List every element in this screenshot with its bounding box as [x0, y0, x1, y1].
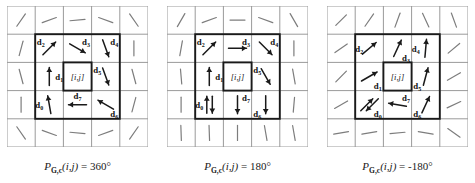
caption-value: 360° [90, 160, 111, 172]
outer-segment [362, 132, 377, 135]
panel-panel-180: [i,j]d0d1d2d3d4d5d6d7PG,c(i,j) = 180° [160, 0, 315, 183]
panel-panel-360: [i,j]d0d1d2d3d4d5d6d7PG,c(i,j) = 360° [0, 0, 155, 183]
neighbor-index-d2: 2 [202, 42, 205, 48]
outer-segment [395, 13, 400, 27]
neighbor-label-d5: d5 [93, 65, 101, 76]
neighbor-label-d4: d4 [412, 44, 420, 55]
grid-svg: [i,j]d0d1d2d3d4d5d6d7 [327, 6, 468, 147]
caption-subscript: G,c [369, 166, 380, 175]
grid-svg: [i,j]d0d1d2d3d4d5d6d7 [167, 6, 308, 147]
outer-segment [70, 19, 85, 20]
outer-segment [334, 132, 349, 135]
outer-segment [19, 41, 23, 55]
neighbor-index-d2: 2 [42, 42, 45, 48]
neighbor-label-d3: d3 [402, 53, 410, 64]
neighbor-label-d6: d6 [253, 109, 261, 120]
arrow-d6-head [263, 109, 269, 114]
neighbor-d2: d2 [37, 37, 56, 55]
outer-segment [42, 18, 56, 23]
caption-args: (i,j) [62, 160, 78, 172]
neighbor-index-d6: 6 [115, 114, 118, 120]
neighbor-d2: d2 [355, 43, 376, 55]
outer-segment [19, 69, 23, 83]
neighbor-index-d5: 5 [258, 70, 261, 76]
neighbor-d5: d5 [253, 65, 270, 84]
outer-segment [177, 14, 185, 27]
outer-segment [99, 130, 113, 135]
neighbor-label-d2: d2 [37, 37, 45, 48]
outer-segment [423, 13, 429, 27]
caption-symbol: P [204, 160, 211, 172]
arrow-d1-head [46, 68, 52, 73]
figure-root: [i,j]d0d1d2d3d4d5d6d7PG,c(i,j) = 360°[i,… [0, 0, 475, 183]
neighbor-d0: d0 [195, 96, 215, 113]
neighbor-index-d5: 5 [98, 70, 101, 76]
outer-segment [447, 102, 461, 108]
neighbor-d6: d6 [413, 97, 430, 121]
outer-segment [447, 73, 460, 81]
neighbor-label-d6: d6 [110, 109, 118, 120]
neighbor-label-d0: d0 [195, 100, 203, 111]
outer-segment [130, 14, 139, 26]
neighbor-d0: d0 [35, 96, 51, 114]
outer-segment [180, 69, 181, 84]
outer-segment [365, 14, 374, 26]
caption-subscript: G,c [211, 166, 222, 175]
neighbor-d1: d1 [206, 68, 223, 86]
neighbor-index-d6: 6 [418, 114, 421, 120]
arrow-d4-head [423, 39, 429, 44]
outer-segment [130, 127, 139, 139]
neighbor-index-d4: 4 [417, 49, 420, 55]
outer-segment [390, 132, 405, 133]
outer-segment [132, 69, 136, 83]
center-cell-label: [i,j] [231, 72, 244, 82]
center-cell-label: [i,j] [391, 72, 404, 82]
neighbor-index-d4: 4 [115, 42, 118, 48]
neighbor-d3: d3 [394, 40, 410, 64]
neighbor-label-d1: d1 [374, 81, 382, 92]
caption-value: 180° [250, 160, 271, 172]
neighbor-label-d4: d4 [270, 37, 278, 48]
neighbor-label-d7: d7 [242, 93, 250, 104]
neighbor-index-d7: 7 [407, 98, 410, 104]
outer-segment [42, 130, 56, 135]
outer-segment [264, 126, 267, 141]
outer-segment [132, 97, 136, 111]
caption-args: (i,j) [222, 160, 238, 172]
neighbor-index-d6: 6 [258, 114, 261, 120]
outer-segment [99, 18, 113, 23]
neighbor-index-d3: 3 [407, 58, 410, 64]
neighbor-label-d2: d2 [197, 37, 205, 48]
neighbor-d4: d4 [412, 39, 429, 57]
outer-segment [448, 43, 460, 53]
outer-segment [180, 41, 183, 56]
neighbor-index-d1: 1 [379, 86, 382, 92]
outer-segment [335, 44, 347, 53]
neighbor-index-d1: 1 [220, 77, 223, 83]
arrow-d0-b-head [209, 109, 215, 114]
neighborhood-grid: [i,j]d0d1d2d3d4d5d6d7 [7, 6, 148, 147]
neighbor-d7: d7 [389, 93, 410, 107]
outer-segment [418, 132, 433, 135]
neighbor-d6: d6 [98, 100, 118, 120]
outer-segment [181, 125, 182, 140]
neighbor-d3: d3 [229, 37, 250, 51]
neighbor-label-d4: d4 [110, 37, 118, 48]
outer-segment [17, 14, 26, 26]
neighbor-index-d0: 0 [200, 105, 203, 111]
neighbor-label-d3: d3 [242, 37, 250, 48]
neighbor-index-d7: 7 [78, 96, 81, 102]
panel-caption: PG,c(i,j) = 180° [160, 160, 315, 175]
outer-segment [70, 132, 85, 133]
arrow-d5-head [424, 68, 430, 73]
neighborhood-grid: [i,j]d0d1d2d3d4d5d6d7 [167, 6, 308, 147]
outer-segment [335, 101, 348, 109]
panel-panel-minus180: [i,j]d0d1d2d3d4d5d6d7PG,c(i,j) = -180° [320, 0, 475, 183]
caption-equals: = [238, 160, 250, 172]
arrow-d7-head [69, 102, 74, 108]
neighbor-label-d3: d3 [82, 37, 90, 48]
outer-segment [336, 71, 347, 82]
outer-segment [209, 125, 210, 140]
neighbor-d3: d3 [70, 37, 90, 53]
neighbor-index-d5: 5 [418, 86, 421, 92]
